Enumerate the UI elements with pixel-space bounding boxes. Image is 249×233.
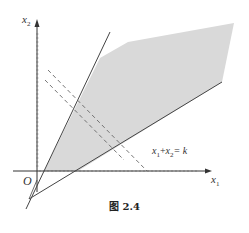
y-axis-arrow bbox=[35, 19, 40, 27]
feasible-region bbox=[44, 23, 234, 171]
figure-caption: 图 2.4 bbox=[0, 198, 249, 213]
origin-label: O bbox=[23, 174, 32, 189]
y-axis-label: x2 bbox=[22, 13, 30, 28]
x-axis-label: x1 bbox=[211, 173, 219, 188]
level-line-label: x1+x2= k bbox=[152, 145, 187, 159]
